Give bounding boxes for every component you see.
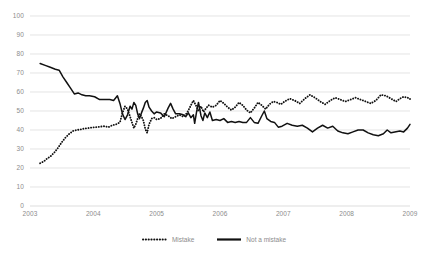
y-axis-tick-70: 70 bbox=[2, 69, 24, 76]
y-axis-tick-80: 80 bbox=[2, 50, 24, 57]
legend-item-not-a-mistake: Not a mistake bbox=[216, 236, 286, 243]
gridlines-group bbox=[30, 16, 410, 206]
legend-swatch-solid-icon bbox=[216, 236, 242, 243]
legend-label-mistake: Mistake bbox=[172, 236, 194, 243]
y-axis-tick-10: 10 bbox=[2, 183, 24, 190]
y-axis-tick-50: 50 bbox=[2, 107, 24, 114]
y-axis-tick-40: 40 bbox=[2, 126, 24, 133]
y-axis-tick-100: 100 bbox=[2, 12, 24, 19]
chart-plot-area bbox=[0, 0, 428, 256]
legend-label-not-a-mistake: Not a mistake bbox=[246, 236, 286, 243]
x-axis-tick-2009: 2009 bbox=[390, 210, 428, 217]
series-line-mistake bbox=[40, 95, 410, 163]
y-axis-tick-90: 90 bbox=[2, 31, 24, 38]
x-axis-tick-2006: 2006 bbox=[200, 210, 240, 217]
y-axis-tick-0: 0 bbox=[2, 202, 24, 209]
y-axis-tick-60: 60 bbox=[2, 88, 24, 95]
x-axis-tick-2003: 2003 bbox=[10, 210, 50, 217]
x-axis-tick-2008: 2008 bbox=[327, 210, 367, 217]
y-axis-tick-20: 20 bbox=[2, 164, 24, 171]
data-series-group bbox=[40, 64, 410, 164]
legend-item-mistake: Mistake bbox=[142, 236, 194, 243]
chart-legend: Mistake Not a mistake bbox=[0, 236, 428, 243]
series-line-not-a-mistake bbox=[40, 64, 410, 136]
legend-swatch-dotted-icon bbox=[142, 236, 168, 243]
y-axis-tick-30: 30 bbox=[2, 145, 24, 152]
x-axis-tick-2005: 2005 bbox=[137, 210, 177, 217]
x-axis-tick-2007: 2007 bbox=[263, 210, 303, 217]
x-axis-tick-2004: 2004 bbox=[73, 210, 113, 217]
chart-container: 1009080706050403020100 20032004200520062… bbox=[0, 0, 428, 256]
